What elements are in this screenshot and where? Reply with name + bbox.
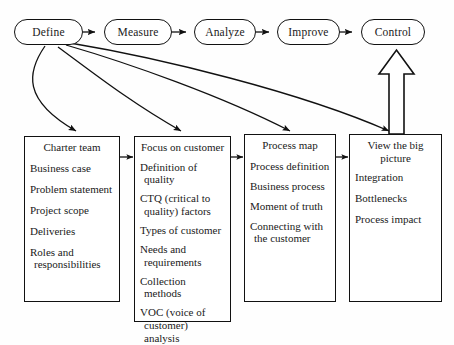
phase-label: Improve [288, 26, 328, 38]
detail-box-view-the-big-picture[interactable]: View the big picture Integration Bottlen… [349, 134, 442, 302]
diagram-canvas: Define Measure Analyze Improve Control C… [0, 0, 454, 345]
box-item-list: Integration Bottlenecks Process impact [355, 171, 436, 226]
list-item: Business process [250, 180, 330, 193]
detail-box-focus-on-customer[interactable]: Focus on customer Definition of quality … [134, 136, 231, 322]
phase-analyze[interactable]: Analyze [194, 19, 256, 45]
list-item: Connecting with the customer [250, 220, 330, 245]
box-title: Charter team [30, 141, 114, 154]
box-title: Focus on customer [140, 141, 225, 154]
list-item: Process impact [355, 213, 436, 226]
arrow-define-to-charter [33, 46, 76, 131]
phase-label: Define [32, 26, 65, 38]
phase-label: Measure [118, 26, 159, 38]
box-title: Process map [250, 139, 330, 152]
list-item: VOC (voice of customer) analysis [140, 306, 225, 344]
list-item: CTQ (critical to quality) factors [140, 192, 225, 217]
phase-define[interactable]: Define [14, 19, 83, 45]
phase-label: Analyze [205, 26, 245, 38]
box-item-list: Business case Problem statement Project … [30, 162, 114, 272]
arrow-define-to-bigpic [70, 43, 389, 131]
list-item: Integration [355, 171, 436, 184]
arrow-define-to-process [66, 45, 290, 131]
list-item: Collection methods [140, 275, 225, 300]
block-arrow-feedback-to-control [379, 50, 414, 134]
detail-box-process-map[interactable]: Process map Process definition Business … [244, 134, 336, 302]
list-item: Types of customer [140, 224, 225, 237]
list-item: Roles and responsibilities [30, 246, 114, 271]
phase-control[interactable]: Control [361, 19, 425, 45]
phase-improve[interactable]: Improve [277, 19, 340, 45]
detail-box-charter-team[interactable]: Charter team Business case Problem state… [24, 136, 120, 302]
phase-measure[interactable]: Measure [104, 19, 172, 45]
list-item: Project scope [30, 204, 114, 217]
list-item: Moment of truth [250, 200, 330, 213]
phase-label: Control [375, 26, 412, 38]
list-item: Problem statement [30, 183, 114, 196]
arrow-define-to-focus [58, 47, 181, 131]
box-item-list: Process definition Business process Mome… [250, 160, 330, 245]
box-title: View the big picture [355, 139, 436, 164]
list-item: Business case [30, 162, 114, 175]
list-item: Needs and requirements [140, 243, 225, 268]
list-item: Deliveries [30, 225, 114, 238]
list-item: Process definition [250, 160, 330, 173]
list-item: Bottlenecks [355, 192, 436, 205]
list-item: Definition of quality [140, 161, 225, 186]
box-item-list: Definition of quality CTQ (critical to q… [140, 161, 225, 345]
